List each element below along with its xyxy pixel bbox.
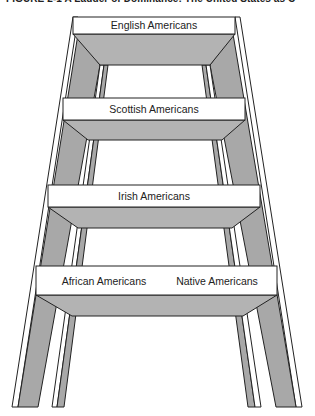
ladder-diagram [0, 0, 315, 416]
rung-label-irish-americans: Irish Americans [48, 190, 260, 202]
rung-label-african-americans: African Americans [60, 275, 148, 287]
rung-label-scottish-americans: Scottish Americans [63, 103, 245, 115]
rung-label-native-americans: Native Americans [174, 275, 260, 287]
rung-label-english-americans: English Americans [73, 19, 235, 31]
rung-4 [36, 266, 277, 316]
